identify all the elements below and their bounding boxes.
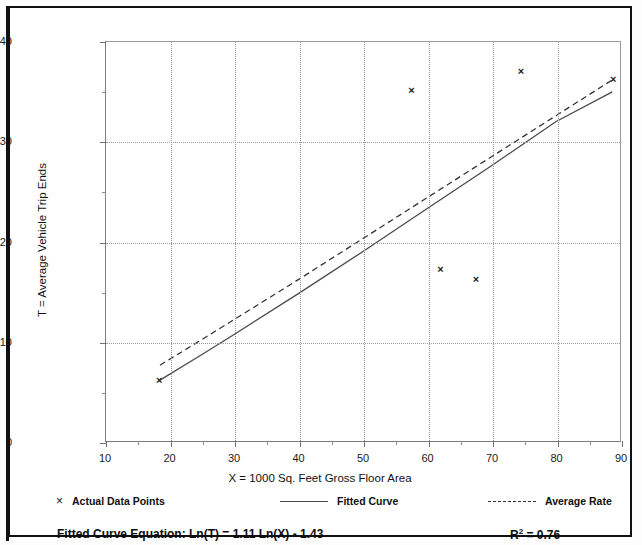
gridline-vertical: [493, 42, 494, 441]
y-axis-minor-tick: [102, 92, 106, 93]
y-axis-minor-tick: [102, 192, 106, 193]
x-axis-tick: [235, 441, 236, 447]
r-squared-value: R2 = 0.76: [510, 527, 560, 542]
gridline-vertical: [171, 42, 172, 441]
x-axis-tick-label: 90: [615, 452, 627, 464]
plot-area: [105, 41, 621, 442]
x-axis-tick: [558, 441, 559, 447]
gridline-vertical: [300, 42, 301, 441]
x-axis-tick-label: 80: [550, 452, 562, 464]
x-axis-minor-tick: [396, 441, 397, 445]
x-axis-minor-tick: [461, 441, 462, 445]
gridline-horizontal: [106, 142, 620, 143]
solid-line-icon: [280, 501, 328, 502]
curve-layer: [106, 42, 620, 441]
y-axis-tick: [100, 42, 106, 43]
gridline-vertical: [429, 42, 430, 441]
dashed-line-icon: [488, 501, 536, 502]
x-axis-minor-tick: [525, 441, 526, 445]
data-point-marker: ×: [608, 74, 619, 85]
x-axis-tick: [106, 441, 107, 447]
x-axis-minor-tick: [332, 441, 333, 445]
x-axis-tick-label: 70: [486, 452, 498, 464]
x-axis-tick-label: 40: [292, 452, 304, 464]
legend-label-fitted-curve: Fitted Curve: [337, 495, 398, 507]
gridline-horizontal: [106, 243, 620, 244]
legend-item-actual-data-points: × Actual Data Points: [56, 495, 165, 507]
legend-item-fitted-curve: Fitted Curve: [280, 495, 398, 507]
x-axis-minor-tick: [138, 441, 139, 445]
y-axis-tick: [100, 343, 106, 344]
x-axis-tick: [171, 441, 172, 447]
y-axis-tick: [100, 443, 106, 444]
chart-frame: 102030405060708090010203040 ×××××× X = 1…: [8, 6, 632, 537]
y-axis-title: T = Average Vehicle Trip Ends: [36, 163, 48, 317]
chart-page: 102030405060708090010203040 ×××××× X = 1…: [0, 0, 642, 545]
x-marker-icon: ×: [56, 495, 63, 507]
x-axis-tick-label: 20: [163, 452, 175, 464]
data-point-marker: ×: [406, 85, 417, 96]
r-squared-prefix: R: [510, 528, 519, 542]
gridline-vertical: [364, 42, 365, 441]
data-point-marker: ×: [516, 66, 527, 77]
y-axis-tick-label: 0: [0, 436, 12, 448]
x-axis-tick: [300, 441, 301, 447]
legend: × Actual Data Points Fitted Curve Averag…: [10, 495, 630, 517]
r-squared-number: = 0.76: [523, 528, 560, 542]
data-point-marker: ×: [470, 274, 481, 285]
x-axis-tick-label: 30: [228, 452, 240, 464]
x-axis-tick: [622, 441, 623, 447]
gridline-vertical: [558, 42, 559, 441]
fitted-curve-line: [160, 92, 612, 380]
x-axis-tick-label: 60: [421, 452, 433, 464]
y-axis-tick-label: 10: [0, 336, 12, 348]
x-axis-tick-label: 10: [99, 452, 111, 464]
x-axis-title: X = 1000 Sq. Feet Gross Floor Area: [10, 472, 630, 484]
legend-item-average-rate: Average Rate: [488, 495, 612, 507]
x-axis-minor-tick: [267, 441, 268, 445]
legend-label-actual-data-points: Actual Data Points: [72, 495, 165, 507]
x-axis-minor-tick: [203, 441, 204, 445]
x-axis-tick: [364, 441, 365, 447]
x-axis-tick-label: 50: [357, 452, 369, 464]
y-axis-tick: [100, 243, 106, 244]
data-point-marker: ×: [435, 264, 446, 275]
x-axis-tick: [429, 441, 430, 447]
fitted-curve-equation: Fitted Curve Equation: Ln(T) = 1.11 Ln(X…: [57, 527, 323, 541]
y-axis-minor-tick: [102, 393, 106, 394]
data-point-marker: ×: [154, 375, 165, 386]
y-axis-tick: [100, 142, 106, 143]
gridline-horizontal: [106, 343, 620, 344]
x-axis-minor-tick: [590, 441, 591, 445]
y-axis-tick-label: 30: [0, 135, 12, 147]
gridline-vertical: [235, 42, 236, 441]
y-axis-minor-tick: [102, 293, 106, 294]
legend-label-average-rate: Average Rate: [545, 495, 612, 507]
y-axis-tick-label: 40: [0, 35, 12, 47]
y-axis-tick-label: 20: [0, 236, 12, 248]
x-axis-tick: [493, 441, 494, 447]
average-rate-line: [160, 80, 612, 365]
